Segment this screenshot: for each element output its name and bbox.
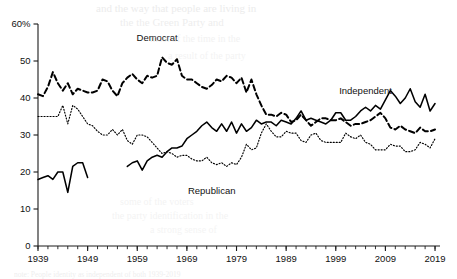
series-label-independent: Independent <box>339 85 392 96</box>
series-line-independent <box>38 163 88 193</box>
y-tick-label: 10 <box>20 203 31 214</box>
x-tick-label: 2009 <box>375 253 396 264</box>
series-line-independent <box>127 89 435 170</box>
series-independent: Independent <box>38 85 435 192</box>
x-tick-label: 1989 <box>276 253 297 264</box>
y-tick-label: 50 <box>20 55 31 66</box>
series-democrat: Democrat <box>38 32 435 133</box>
y-axis-ticks: 0102030405060% <box>11 18 38 251</box>
y-tick-label: 60% <box>11 18 31 29</box>
x-tick-label: 1939 <box>27 253 48 264</box>
series-line-republican <box>38 105 435 166</box>
x-tick-label: 2019 <box>424 253 445 264</box>
series-label-democrat: Democrat <box>137 32 179 43</box>
x-tick-label: 1959 <box>127 253 148 264</box>
y-tick-label: 0 <box>25 240 30 251</box>
x-tick-label: 1999 <box>325 253 346 264</box>
x-tick-label: 1949 <box>77 253 98 264</box>
y-tick-label: 40 <box>20 92 31 103</box>
x-axis-ticks: 193919491959196919791989199920092019 <box>27 246 445 264</box>
series-republican: Republican <box>38 105 435 196</box>
x-tick-label: 1969 <box>176 253 197 264</box>
y-tick-label: 20 <box>20 166 31 177</box>
x-tick-label: 1979 <box>226 253 247 264</box>
y-tick-label: 30 <box>20 129 31 140</box>
series-label-republican: Republican <box>188 185 236 196</box>
